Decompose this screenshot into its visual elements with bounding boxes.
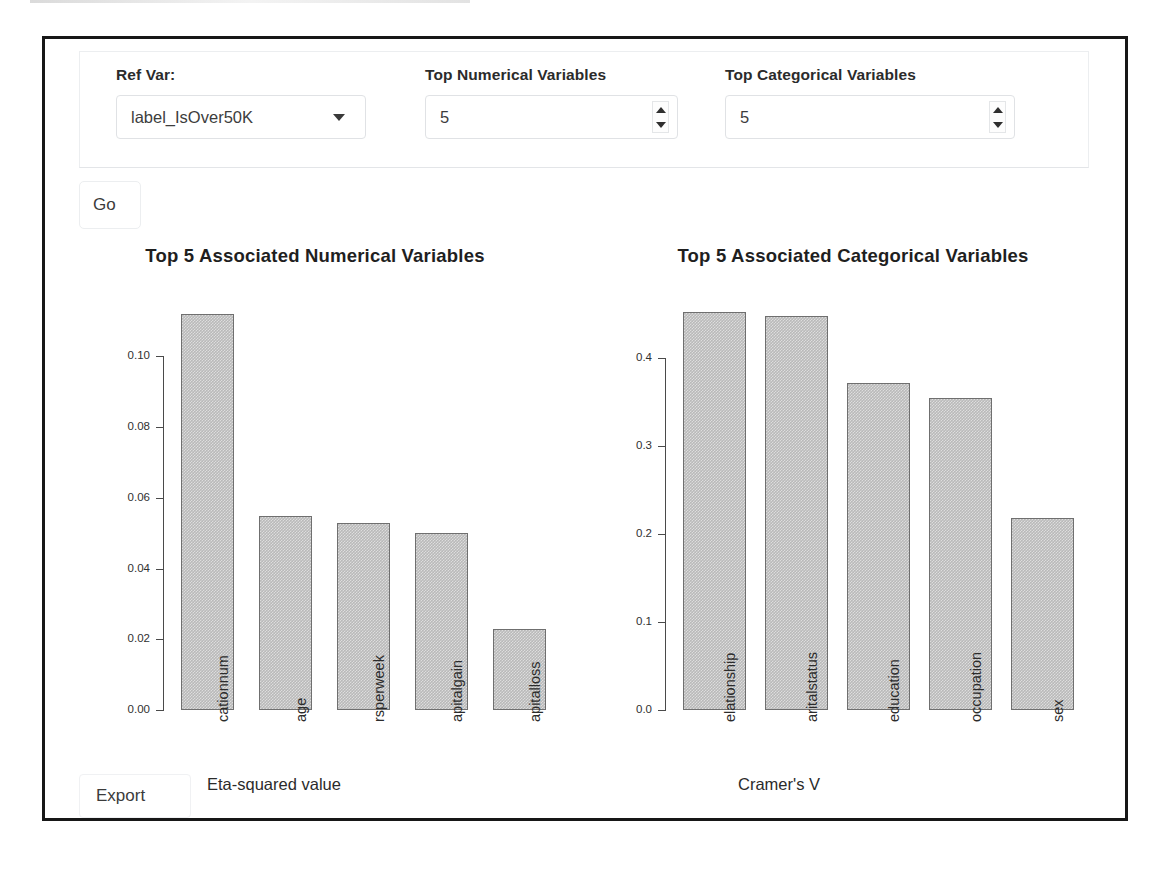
app-panel: Ref Var: label_IsOver50K Top Numerical V… xyxy=(42,36,1128,821)
bar xyxy=(259,516,312,710)
chart-categorical-plot: 0.00.10.20.30.4elationshiparitalstatused… xyxy=(583,283,1123,773)
chevron-down-icon[interactable] xyxy=(333,114,345,121)
triangle-up-icon xyxy=(656,107,666,113)
chart-numerical-plot: 0.000.020.040.060.080.10cationnumagerspe… xyxy=(45,283,585,773)
ref-var-value: label_IsOver50K xyxy=(117,108,253,127)
y-axis-tick xyxy=(156,498,164,499)
y-axis-tick-label: 0.2 xyxy=(607,527,652,539)
x-axis-category-label: aritalstatus xyxy=(804,652,820,722)
x-axis-category-label: age xyxy=(293,698,309,722)
y-axis-tick xyxy=(658,710,666,711)
top-categorical-input[interactable]: 5 xyxy=(725,95,1015,139)
x-axis-category-label: cationnum xyxy=(215,655,231,722)
x-axis-category-label: rsperweek xyxy=(371,655,387,722)
y-axis-tick xyxy=(658,534,666,535)
go-button[interactable]: Go xyxy=(79,181,141,229)
stepper-up-button[interactable] xyxy=(990,102,1005,117)
y-axis-tick-label: 0.1 xyxy=(607,615,652,627)
top-numerical-value: 5 xyxy=(426,108,449,127)
ref-var-control: Ref Var: label_IsOver50K xyxy=(116,66,366,139)
top-numerical-stepper[interactable] xyxy=(652,101,669,133)
y-axis-tick xyxy=(658,446,666,447)
triangle-up-icon xyxy=(993,107,1003,113)
controls-row: Ref Var: label_IsOver50K Top Numerical V… xyxy=(79,51,1089,168)
x-axis-title: Eta-squared value xyxy=(207,775,341,794)
chart-categorical: Top 5 Associated Categorical Variables 0… xyxy=(583,237,1123,777)
top-numerical-input[interactable]: 5 xyxy=(425,95,678,139)
y-axis-tick-label: 0.4 xyxy=(607,351,652,363)
y-axis-line xyxy=(163,356,164,710)
export-button[interactable]: Export xyxy=(79,774,191,818)
x-axis-category-label: apitalloss xyxy=(527,662,543,722)
y-axis-tick-label: 0.02 xyxy=(105,632,150,644)
y-axis-tick-label: 0.0 xyxy=(607,703,652,715)
top-categorical-stepper[interactable] xyxy=(989,101,1006,133)
y-axis-tick xyxy=(156,356,164,357)
charts-area: Top 5 Associated Numerical Variables 0.0… xyxy=(45,237,1125,777)
y-axis-tick-label: 0.06 xyxy=(105,491,150,503)
y-axis-tick xyxy=(658,622,666,623)
chart-numerical: Top 5 Associated Numerical Variables 0.0… xyxy=(45,237,585,777)
y-axis-tick-label: 0.00 xyxy=(105,703,150,715)
y-axis-tick xyxy=(156,569,164,570)
stepper-down-button[interactable] xyxy=(653,117,668,132)
chart-numerical-title: Top 5 Associated Numerical Variables xyxy=(45,245,585,267)
ref-var-label: Ref Var: xyxy=(116,66,366,84)
chart-categorical-title: Top 5 Associated Categorical Variables xyxy=(583,245,1123,267)
ref-var-select[interactable]: label_IsOver50K xyxy=(116,95,366,139)
top-numerical-label: Top Numerical Variables xyxy=(425,66,678,84)
x-axis-category-label: apitalgain xyxy=(449,660,465,722)
scan-artifact xyxy=(30,0,470,3)
bar xyxy=(683,312,746,710)
top-categorical-label: Top Categorical Variables xyxy=(725,66,1015,84)
x-axis-category-label: education xyxy=(886,659,902,722)
top-categorical-value: 5 xyxy=(726,108,749,127)
y-axis-tick-label: 0.3 xyxy=(607,439,652,451)
x-axis-category-label: sex xyxy=(1050,699,1066,722)
stepper-down-button[interactable] xyxy=(990,117,1005,132)
y-axis-tick xyxy=(156,710,164,711)
y-axis-tick xyxy=(156,427,164,428)
triangle-down-icon xyxy=(993,122,1003,128)
stepper-up-button[interactable] xyxy=(653,102,668,117)
y-axis-tick-label: 0.08 xyxy=(105,420,150,432)
triangle-down-icon xyxy=(656,122,666,128)
x-axis-category-label: occupation xyxy=(968,652,984,722)
y-axis-tick-label: 0.04 xyxy=(105,562,150,574)
top-numerical-control: Top Numerical Variables 5 xyxy=(425,66,678,139)
x-axis-category-label: elationship xyxy=(722,653,738,722)
x-axis-title: Cramer's V xyxy=(738,775,820,794)
y-axis-tick-label: 0.10 xyxy=(105,349,150,361)
y-axis-tick xyxy=(658,358,666,359)
top-categorical-control: Top Categorical Variables 5 xyxy=(725,66,1015,139)
y-axis-tick xyxy=(156,639,164,640)
bar xyxy=(1011,518,1074,710)
bar xyxy=(181,314,234,710)
